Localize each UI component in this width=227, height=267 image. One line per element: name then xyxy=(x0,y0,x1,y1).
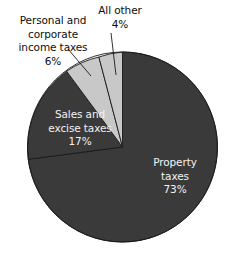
pie-label-all-other: All other 4% xyxy=(80,4,160,31)
pie-chart: Personal and corporate income taxes 6% A… xyxy=(0,0,227,267)
pie-label-value: 4% xyxy=(80,18,160,32)
pie-label-property-taxes: Property taxes 73% xyxy=(138,156,212,197)
pie-label-value: 6% xyxy=(0,55,106,69)
pie-label-value: 73% xyxy=(138,183,212,197)
pie-label-line: Property xyxy=(138,156,212,170)
pie-label-line: All other xyxy=(80,4,160,18)
pie-label-line: income taxes xyxy=(0,41,106,55)
pie-label-line: taxes xyxy=(138,170,212,184)
pie-label-sales-and-excise-taxes: Sales and excise taxes 17% xyxy=(32,108,128,149)
pie-label-line: excise taxes xyxy=(32,122,128,136)
pie-label-line: Sales and xyxy=(32,108,128,122)
pie-label-value: 17% xyxy=(32,135,128,149)
